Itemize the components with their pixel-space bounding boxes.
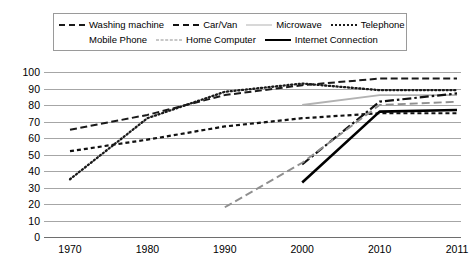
legend-swatch-washing-machine [59, 20, 85, 29]
legend-swatch-home-computer [156, 35, 182, 44]
legend-swatch-mobile-phone [59, 35, 85, 44]
legend-swatch-telephone [331, 20, 357, 29]
chart-legend: Washing machine Car/Van Microwave Teleph… [53, 13, 407, 51]
chart-container: Washing machine Car/Van Microwave Teleph… [0, 0, 475, 272]
plot-area [44, 72, 461, 237]
y-tick-label: 50 [0, 150, 40, 160]
y-tick-label: 30 [0, 183, 40, 193]
legend-label-telephone: Telephone [361, 19, 405, 30]
x-tick-label: 2000 [291, 243, 314, 255]
x-axis-line [44, 237, 461, 238]
x-tick-label: 2011 [446, 243, 469, 255]
series-line-telephone [70, 84, 457, 180]
legend-swatch-microwave [246, 20, 272, 29]
legend-item-home-computer: Home Computer [156, 34, 256, 45]
legend-item-microwave: Microwave [246, 19, 321, 30]
x-tick-label: 1990 [213, 243, 236, 255]
legend-label-car-van: Car/Van [203, 19, 237, 30]
y-tick-label: 70 [0, 117, 40, 127]
x-tick-label: 2010 [368, 243, 391, 255]
legend-label-internet-connection: Internet Connection [295, 34, 378, 45]
legend-label-microwave: Microwave [276, 19, 321, 30]
x-axis-labels: 197019801990200020102011 [44, 243, 461, 257]
y-tick-label: 90 [0, 84, 40, 94]
legend-item-telephone: Telephone [331, 19, 405, 30]
y-tick-label: 0 [0, 232, 40, 242]
legend-row-2: Mobile Phone Home Computer Internet Conn… [59, 32, 401, 47]
legend-label-home-computer: Home Computer [186, 34, 256, 45]
y-tick-label: 80 [0, 100, 40, 110]
legend-item-washing-machine: Washing machine [59, 19, 164, 30]
legend-swatch-internet-connection [265, 35, 291, 44]
y-tick-label: 60 [0, 133, 40, 143]
series-lines [44, 72, 461, 237]
legend-label-mobile-phone: Mobile Phone [89, 34, 147, 45]
x-tick-label: 1980 [136, 243, 159, 255]
legend-label-washing-machine: Washing machine [89, 19, 164, 30]
y-tick-label: 20 [0, 199, 40, 209]
series-line-internet-connection [302, 110, 457, 183]
legend-item-internet-connection: Internet Connection [265, 34, 378, 45]
y-tick-label: 100 [0, 67, 40, 77]
legend-row-1: Washing machine Car/Van Microwave Teleph… [59, 17, 401, 32]
y-tick-label: 40 [0, 166, 40, 176]
x-tick-label: 1970 [58, 243, 81, 255]
y-tick-label: 10 [0, 216, 40, 226]
legend-swatch-car-van [173, 20, 199, 29]
legend-item-mobile-phone: Mobile Phone [59, 34, 147, 45]
series-line-home-computer [225, 102, 457, 208]
y-axis-labels: 1009080706050403020100 [0, 72, 40, 237]
legend-item-car-van: Car/Van [173, 19, 237, 30]
